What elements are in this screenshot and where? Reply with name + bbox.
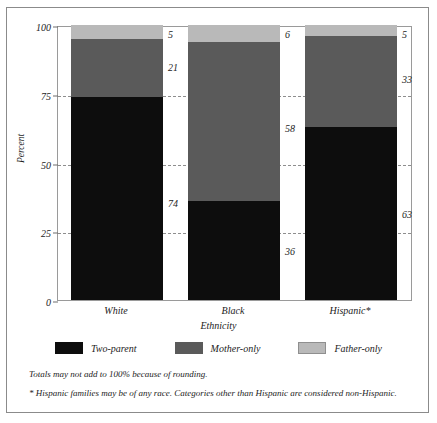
x-tick-label-hispanic: Hispanic* [329,305,370,316]
y-tick-mark-75 [53,95,58,96]
y-tick-mark-25 [53,233,58,234]
bar-hispanic-father-only[interactable] [305,25,397,36]
y-tick-label-100: 100 [36,22,51,33]
value-label-hispanic-mother-only: 33 [402,74,412,85]
x-tick-label-black: Black [222,305,245,316]
footnote-hispanic: * Hispanic families may be of any race. … [29,388,397,398]
y-tick-label-0: 0 [46,297,51,308]
value-label-hispanic-father-only: 5 [402,29,407,40]
legend-item-two-parent[interactable]: Two-parent [55,342,137,354]
legend-item-mother-only[interactable]: Mother-only [175,342,261,354]
bar-hispanic-mother-only[interactable] [305,36,397,127]
value-label-black-mother-only: 58 [285,123,295,134]
y-tick-mark-100 [53,27,58,28]
value-label-black-father-only: 6 [285,29,290,40]
y-tick-mark-50 [53,164,58,165]
legend-label-mother-only: Mother-only [211,343,261,354]
value-label-hispanic-two-parent: 63 [402,209,412,220]
bar-white-father-only[interactable] [71,25,163,39]
bar-black-two-parent[interactable] [188,201,280,300]
y-axis-title: Percent [16,134,26,163]
bar-white-two-parent[interactable] [71,97,163,301]
y-tick-label-75: 75 [41,90,51,101]
value-label-black-two-parent: 36 [285,246,295,257]
chart-figure: Percent 100 75 50 25 0 [0,0,437,423]
footnote-rounding: Totals may not add to 100% because of ro… [29,369,208,379]
legend-item-father-only[interactable]: Father-only [298,342,382,354]
bar-black-mother-only[interactable] [188,42,280,202]
plot-area: 100 75 50 25 0 5 21 74 6 58 36 5 [57,26,412,301]
legend-swatch-father-only-icon [298,342,326,354]
legend-swatch-two-parent-icon [55,342,83,354]
value-label-white-two-parent: 74 [168,198,178,209]
value-label-white-mother-only: 21 [168,62,178,73]
legend-swatch-mother-only-icon [175,342,203,354]
legend-label-father-only: Father-only [334,343,382,354]
bar-hispanic-two-parent[interactable] [305,127,397,300]
chart-legend: Two-parent Mother-only Father-only [0,342,437,354]
value-label-white-father-only: 5 [168,29,173,40]
y-tick-mark-0 [53,302,58,303]
y-tick-label-25: 25 [41,228,51,239]
bar-white-mother-only[interactable] [71,39,163,97]
legend-label-two-parent: Two-parent [91,343,137,354]
y-tick-label-50: 50 [41,159,51,170]
x-tick-label-white: White [104,305,127,316]
bar-black-father-only[interactable] [188,25,280,42]
x-axis-title: Ethnicity [0,320,437,331]
